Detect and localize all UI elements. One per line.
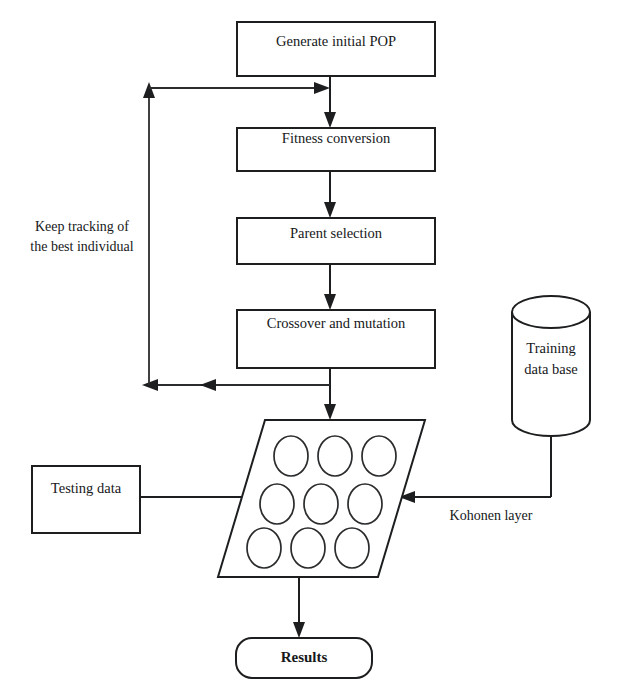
annotation-keep-tracking-line1: Keep tracking of: [35, 219, 129, 234]
node-fitness-conversion-label: Fitness conversion: [282, 130, 391, 146]
node-parent-selection: Parent selection: [237, 218, 435, 264]
cylinder-top: [512, 296, 590, 328]
node-kohonen-layer-grid: [218, 420, 425, 577]
kohonen-cell: [274, 436, 308, 476]
node-results-label: Results: [281, 649, 328, 665]
edge-generate-pop-to-fitness: [324, 76, 336, 128]
node-testing-data: Testing data: [32, 466, 140, 533]
node-crossover-and-mutation-label: Crossover and mutation: [267, 315, 406, 331]
edge-fitness-to-parent-selection: [324, 170, 336, 218]
node-training-data-base-label-line2: data base: [524, 361, 578, 377]
edge-kohonen-to-results: [293, 577, 305, 638]
diagram-canvas: Generate initial POP Fitness conversion …: [0, 0, 624, 693]
node-training-data-base: Training data base: [512, 296, 590, 436]
annotation-kohonen-layer-label: Kohonen layer: [450, 508, 533, 523]
kohonen-cell: [335, 528, 369, 568]
kohonen-cell: [318, 436, 352, 476]
kohonen-cell: [362, 436, 396, 476]
node-generate-initial-pop: Generate initial POP: [237, 22, 435, 76]
node-parent-selection-label: Parent selection: [290, 225, 383, 241]
annotation-keep-tracking-line2: the best individual: [30, 239, 134, 254]
kohonen-cell: [247, 528, 281, 568]
node-testing-data-label: Testing data: [51, 480, 122, 496]
annotation-keep-tracking: Keep tracking of the best individual: [30, 219, 134, 254]
node-fitness-conversion: Fitness conversion: [237, 128, 435, 171]
node-training-data-base-label-line1: Training: [526, 340, 575, 356]
flowchart-diagram: Generate initial POP Fitness conversion …: [0, 0, 624, 693]
annotation-kohonen-layer: Kohonen layer: [450, 508, 533, 523]
node-generate-initial-pop-label: Generate initial POP: [276, 33, 396, 49]
node-results: Results: [236, 638, 372, 678]
kohonen-cell: [291, 528, 325, 568]
kohonen-cell: [348, 484, 382, 524]
edge-crossover-to-kohonen: [324, 367, 336, 420]
edge-training-db-to-kohonen: [399, 432, 551, 503]
kohonen-cell: [304, 484, 338, 524]
kohonen-cell: [260, 484, 294, 524]
edge-parent-selection-to-crossover: [324, 264, 336, 310]
node-crossover-and-mutation: Crossover and mutation: [237, 310, 435, 368]
